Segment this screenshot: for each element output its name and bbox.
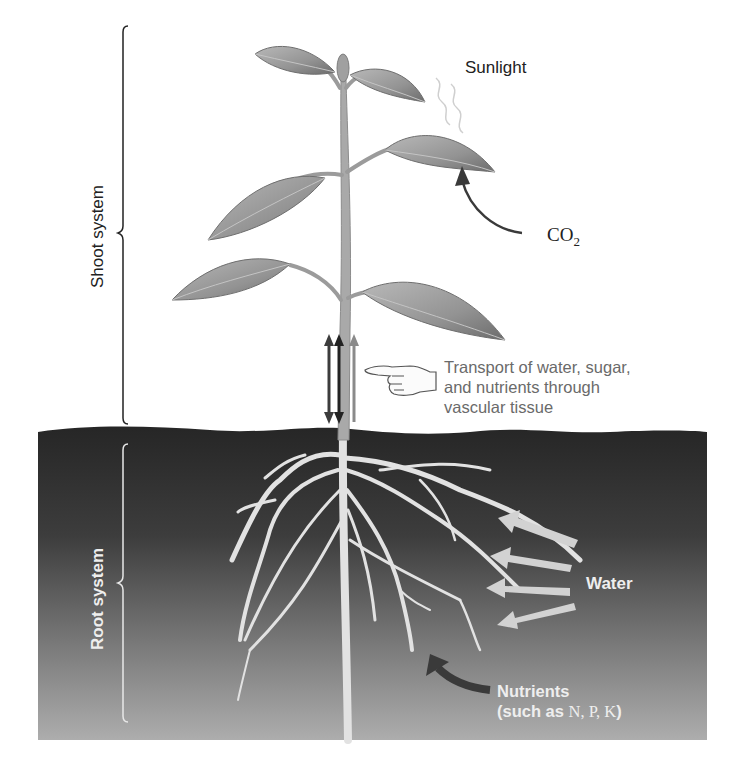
root-system-label: Root system — [88, 548, 108, 650]
shoot-system-label: Shoot system — [88, 185, 108, 288]
shoot-system-brace — [118, 26, 128, 424]
co2-main: CO — [547, 224, 573, 245]
pointing-hand-icon — [365, 366, 436, 395]
co2-arrow — [462, 180, 522, 233]
co2-label: CO2 — [547, 224, 580, 250]
transport-line-2: and nutrients through — [444, 377, 630, 397]
plant-systems-diagram: Sunlight CO2 Transport of water, sugar, … — [0, 0, 738, 766]
nutrients-line-2: (such as N, P, K) — [497, 701, 622, 722]
water-label: Water — [586, 574, 633, 594]
co2-subscript: 2 — [573, 234, 580, 249]
sunlight-label: Sunlight — [465, 58, 526, 78]
nutrient-elements: N, P, K — [569, 702, 617, 721]
transport-line-1: Transport of water, sugar, — [444, 357, 630, 377]
sunlight-rays — [436, 78, 463, 133]
transport-line-3: vascular tissue — [444, 397, 630, 417]
nutrients-label: Nutrients (such as N, P, K) — [497, 681, 622, 722]
apical-bud — [337, 54, 349, 82]
transport-label: Transport of water, sugar, and nutrients… — [444, 357, 630, 417]
nutrients-line-1: Nutrients — [497, 681, 622, 701]
